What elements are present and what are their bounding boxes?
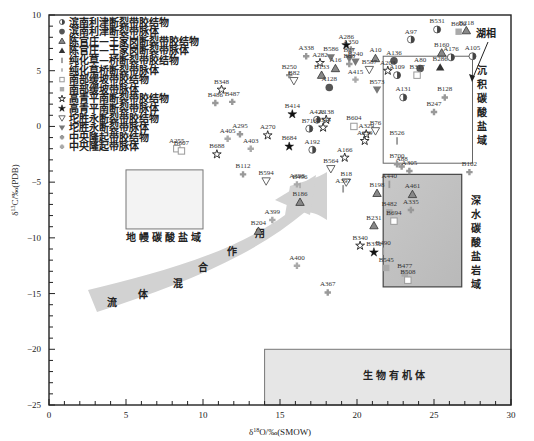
- marker-bar-icon: [396, 137, 398, 144]
- point-label: B688: [209, 142, 225, 150]
- marker-square-icon: [60, 87, 64, 91]
- x-tick-label: 30: [507, 410, 517, 420]
- point-label: B348: [214, 78, 230, 86]
- marker-circle-half-icon: [60, 20, 65, 25]
- marker-square-open-icon: [414, 72, 420, 78]
- marker-plus-dot-icon: [229, 99, 235, 105]
- sedimentary-region-label: 碳: [477, 92, 488, 104]
- point-label: A97: [405, 28, 418, 36]
- data-point: B102: [462, 160, 478, 175]
- point-label: A335: [403, 198, 419, 206]
- data-point: B231: [366, 214, 382, 229]
- y-tick-label: −5: [31, 177, 41, 187]
- data-point: A397: [335, 177, 351, 193]
- data-point: A166: [337, 146, 353, 162]
- point-label: B604: [346, 114, 362, 122]
- point-label: B82: [288, 69, 300, 77]
- sedimentary-region-label: 积: [477, 78, 487, 90]
- data-point: B587: [362, 58, 378, 74]
- deepwater-region-label: 水: [470, 208, 482, 220]
- point-label: B344: [316, 116, 332, 124]
- point-label: B487: [225, 90, 241, 98]
- point-label: A176: [443, 45, 459, 53]
- point-label: A399: [265, 208, 281, 216]
- marker-square-open-icon: [60, 77, 64, 81]
- point-label: A16: [329, 56, 342, 64]
- marker-bar-icon: [342, 185, 344, 192]
- point-label: B573: [369, 78, 385, 86]
- deepwater-region-label: 碳: [471, 222, 482, 234]
- data-point: B684: [282, 134, 298, 150]
- x-axis-label: δ18O/‰(SMOW): [249, 427, 311, 437]
- point-label: B231: [366, 214, 382, 222]
- marker-triangle-open-icon: [331, 64, 339, 71]
- legend: 滨南利津断裂带胶结物滨南利津断裂带脉体陈官庄—王家岗断裂带胶结物陈官庄—王家岗断…: [59, 16, 199, 153]
- marker-square-icon: [383, 265, 389, 271]
- point-label: B564: [323, 157, 339, 165]
- organic-region-label: 生物有机体: [363, 369, 428, 381]
- data-point: B344: [316, 116, 332, 132]
- fluid-mixing-label: 作: [227, 245, 237, 257]
- point-label: A397: [335, 177, 351, 185]
- point-label: A128: [321, 75, 337, 83]
- deepwater-region-label: 盐: [471, 250, 481, 262]
- y-tick-label: −10: [27, 233, 42, 243]
- marker-star-icon: [59, 105, 66, 112]
- point-label: B607: [174, 139, 190, 147]
- point-label: B694: [386, 209, 402, 217]
- point-label: A350: [343, 38, 359, 46]
- marker-triangle-icon: [59, 48, 65, 53]
- marker-square-icon: [455, 29, 461, 35]
- x-tick-label: 15: [276, 410, 286, 420]
- marker-bar-icon: [388, 181, 390, 188]
- point-label: B198: [369, 181, 385, 189]
- point-label: A131: [395, 85, 411, 93]
- data-point: B531: [429, 17, 445, 33]
- deepwater-region-label: 岩: [470, 264, 481, 276]
- sedimentary-region-label: 盐: [477, 120, 487, 132]
- marker-square-open-icon: [178, 148, 184, 154]
- marker-tri-down-icon: [351, 59, 359, 66]
- marker-bar-icon: [382, 248, 384, 255]
- marker-plus-dot-icon: [325, 289, 331, 295]
- data-point: B594: [259, 169, 275, 185]
- marker-tri-down-open-icon: [290, 78, 298, 85]
- marker-star-icon: [288, 110, 297, 118]
- legend-label: 中央隆起带脉体: [69, 140, 140, 152]
- point-label: A305: [402, 159, 418, 167]
- point-label: A109: [389, 63, 405, 71]
- data-point: A16: [329, 56, 342, 71]
- point-label: B102: [462, 160, 478, 168]
- point-label: A166: [337, 146, 353, 154]
- marker-star-open-icon: [263, 131, 272, 139]
- x-tick-label: 5: [124, 410, 129, 420]
- point-label: B204: [251, 219, 267, 227]
- marker-bar-small-icon: [61, 68, 63, 71]
- point-label: A136: [386, 49, 402, 57]
- sedimentary-region-label: 域: [477, 134, 487, 146]
- point-label: B594: [259, 169, 275, 177]
- marker-plus-dot-icon: [240, 171, 246, 177]
- point-label: B414: [285, 102, 301, 110]
- marker-circle-half-icon: [394, 72, 401, 79]
- data-point: A192: [305, 138, 321, 154]
- data-point: A403: [243, 137, 259, 152]
- marker-plus-icon: [294, 263, 300, 269]
- data-point: A239: [357, 129, 373, 145]
- isotope-scatter-chart: 地幔碳酸盐域沉积碳酸盐域深水碳酸盐岩域生物有机体 流体混合作用 05101520…: [0, 0, 534, 441]
- y-tick-label: −20: [27, 344, 42, 354]
- data-point: A97: [405, 28, 418, 44]
- point-label: A461: [405, 182, 421, 190]
- marker-plus-dot-icon: [466, 169, 472, 175]
- y-tick-label: −25: [27, 400, 42, 410]
- fluid-mixing-label: 体: [138, 288, 149, 300]
- x-tick-label: 20: [353, 410, 363, 420]
- marker-star-open-icon: [319, 123, 328, 131]
- marker-tri-down-icon: [59, 125, 65, 130]
- lacustrine-label: 湖相: [476, 27, 496, 39]
- marker-plus-dot-icon: [303, 53, 309, 59]
- data-point: B112: [236, 162, 251, 177]
- marker-circle-half-icon: [400, 94, 407, 101]
- point-label: B482: [382, 200, 398, 208]
- point-label: B112: [236, 162, 251, 170]
